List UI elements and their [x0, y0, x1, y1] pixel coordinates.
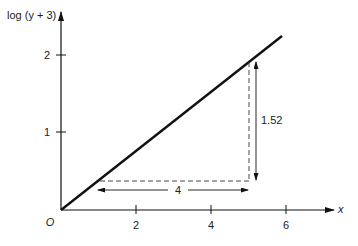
rise-label: 1.52: [261, 114, 282, 126]
y-tick-label-1: 1: [44, 126, 50, 138]
x-axis-label: x: [337, 203, 344, 215]
origin-label: O: [46, 216, 55, 228]
run-label: 4: [175, 184, 181, 196]
x-tick-label-2: 2: [133, 219, 139, 231]
chart: 2 4 6 1 2 O log (y + 3) x 4 1.52: [0, 0, 358, 246]
x-tick-label-6: 6: [283, 219, 289, 231]
y-axis-label: log (y + 3): [7, 9, 56, 21]
x-tick-label-4: 4: [208, 219, 214, 231]
y-tick-label-2: 2: [44, 49, 50, 61]
